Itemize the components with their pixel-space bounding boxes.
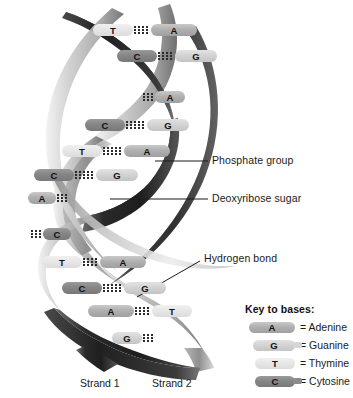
base-pill-C: C bbox=[62, 282, 102, 294]
base-pill-C: C bbox=[85, 119, 125, 131]
base-pill-G: G bbox=[112, 332, 142, 344]
hydrogen-bond-icon bbox=[57, 193, 68, 203]
hydrogen-bond-icon bbox=[143, 92, 154, 102]
base-pair-row: C G bbox=[117, 50, 217, 62]
base-pill-T: T bbox=[93, 24, 133, 36]
base-pill-T: T bbox=[62, 145, 102, 157]
legend-label-cytosine: = Cytosine bbox=[300, 375, 350, 387]
base-pill-A: A bbox=[151, 24, 197, 36]
hydrogen-bond-icon bbox=[134, 25, 150, 35]
legend-label-adenine: = Adenine bbox=[300, 321, 347, 333]
base-pill-C: C bbox=[34, 169, 74, 181]
legend-item-guanine: G = Guanine bbox=[243, 338, 353, 352]
base-pair-row: T A bbox=[42, 256, 146, 268]
annotation-phosphate-group: Phosphate group bbox=[212, 154, 293, 166]
strand-1-label: Strand 1 bbox=[80, 377, 120, 389]
pill-notch-icon bbox=[293, 342, 302, 348]
legend-key-to-bases: Key to bases: A = Adenine G = Guanine T bbox=[243, 303, 353, 392]
hydrogen-bond-icon bbox=[158, 51, 174, 61]
legend-pill-G: G bbox=[253, 340, 295, 351]
hydrogen-bond-icon bbox=[83, 257, 99, 267]
base-pill-G: G bbox=[147, 119, 189, 131]
base-pair-row: C G bbox=[62, 282, 166, 294]
base-pill-G: G bbox=[124, 282, 166, 294]
pill-notch-icon bbox=[293, 378, 302, 384]
hydrogen-bond-icon bbox=[135, 306, 151, 316]
annotation-hydrogen-bond: Hydrogen bond bbox=[204, 252, 277, 264]
legend-label-guanine: = Guanine bbox=[300, 339, 349, 351]
base-pair-row: T A bbox=[93, 24, 197, 36]
base-pill-C: C bbox=[43, 228, 71, 240]
base-pill-A: A bbox=[88, 305, 134, 317]
base-pill-A: A bbox=[100, 256, 146, 268]
base-pair-row-partial: A bbox=[28, 192, 69, 204]
base-pill-A: A bbox=[28, 192, 56, 204]
base-pill-G: G bbox=[96, 169, 138, 181]
base-pill-T: T bbox=[42, 256, 82, 268]
legend-item-adenine: A = Adenine bbox=[243, 320, 353, 334]
hydrogen-bond-icon bbox=[126, 120, 146, 130]
base-pair-row: C G bbox=[85, 119, 189, 131]
legend-label-thymine: = Thymine bbox=[300, 357, 349, 369]
base-pill-A: A bbox=[124, 145, 170, 157]
legend-pill-C: C bbox=[255, 376, 295, 387]
legend-pill-T: T bbox=[255, 358, 295, 369]
strand-2-label: Strand 2 bbox=[152, 377, 192, 389]
dna-diagram: T A C G A C G T A C G A C T bbox=[0, 0, 353, 398]
base-pill-T: T bbox=[152, 305, 192, 317]
annotation-deoxyribose-sugar: Deoxyribose sugar bbox=[212, 192, 301, 204]
base-pill-A: A bbox=[155, 91, 185, 103]
legend-item-thymine: T = Thymine bbox=[243, 356, 353, 370]
hydrogen-bond-icon bbox=[143, 333, 154, 343]
hydrogen-bond-icon bbox=[103, 283, 123, 293]
base-pair-row-partial: A bbox=[142, 91, 185, 103]
base-pill-C: C bbox=[117, 50, 157, 62]
base-pair-row: T A bbox=[62, 145, 170, 157]
base-pair-row: A T bbox=[88, 305, 192, 317]
hydrogen-bond-icon bbox=[103, 146, 123, 156]
legend-title: Key to bases: bbox=[245, 303, 353, 315]
hydrogen-bond-icon bbox=[75, 170, 95, 180]
base-pair-row-partial: C bbox=[30, 228, 71, 240]
base-pair-row-partial: G bbox=[112, 332, 155, 344]
base-pair-row: C G bbox=[34, 169, 138, 181]
legend-pill-A: A bbox=[249, 322, 295, 333]
hydrogen-bond-icon bbox=[31, 229, 42, 239]
base-pill-G: G bbox=[175, 50, 217, 62]
legend-item-cytosine: C = Cytosine bbox=[243, 374, 353, 388]
